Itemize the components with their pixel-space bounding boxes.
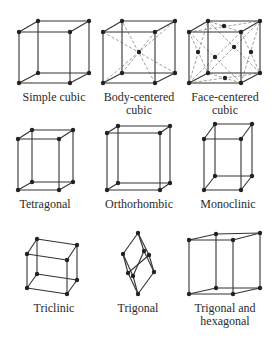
simple-cubic-label: Simple cubic (9, 91, 99, 104)
atom-point (120, 19, 124, 23)
label-line: Trigonal (93, 302, 183, 315)
atom-point (196, 50, 200, 54)
atom-point (158, 131, 162, 135)
atom-point (87, 71, 91, 75)
triclinic-label: Triclinic (9, 302, 99, 315)
atom-point (68, 81, 72, 85)
body-centered-cubic-label: Body-centeredcubic (94, 91, 184, 117)
atom-point (25, 252, 29, 256)
cell-edge (27, 254, 67, 260)
label-line: cubic (94, 104, 184, 117)
atom-point (168, 124, 172, 128)
atom-point (239, 30, 243, 34)
atom-point (87, 19, 91, 23)
cell-edge (70, 73, 89, 83)
atom-point (35, 272, 39, 276)
atom-point (16, 137, 20, 141)
atom-point (105, 131, 109, 135)
cell-edge (155, 73, 175, 83)
atom-point (206, 19, 210, 23)
atom-point (187, 30, 191, 34)
atom-point (131, 274, 135, 278)
label-line: hexagonal (180, 315, 270, 328)
orthorhombic-label: Orthorhombic (94, 198, 184, 211)
label-line: Tetragonal (0, 198, 90, 211)
cell-edge (241, 176, 252, 190)
atom-point (249, 50, 253, 54)
orthorhombic-lattice (105, 124, 172, 192)
atom-point (206, 71, 210, 75)
cell-edge (18, 130, 32, 139)
atom-point (202, 137, 206, 141)
atom-point (258, 231, 262, 235)
cell-edge (18, 182, 32, 190)
atom-point (101, 30, 105, 34)
atom-point (75, 278, 79, 282)
atom-point (137, 50, 141, 54)
cell-edge (189, 234, 216, 240)
cell-edge (59, 130, 73, 139)
trigonal-and-hexagonal-lattice (187, 231, 262, 296)
atom-point (153, 81, 157, 85)
label-line: Orthorhombic (94, 198, 184, 211)
atom-point (213, 55, 217, 59)
trigonal-lattice (121, 231, 156, 296)
atom-point (213, 122, 217, 126)
cell-edge (138, 272, 154, 294)
atom-point (258, 286, 262, 290)
cell-edge (123, 233, 138, 254)
tetragonal-lattice (16, 128, 75, 192)
atom-point (30, 180, 34, 184)
atom-point (101, 81, 105, 85)
atom-point (16, 188, 20, 192)
atom-point (231, 292, 235, 296)
atom-point (17, 30, 21, 34)
atom-point (158, 188, 162, 192)
trigonal-and-hexagonal-label: Trigonal andhexagonal (180, 302, 270, 328)
cell-edge (27, 288, 67, 294)
atom-point (173, 71, 177, 75)
cell-edge (189, 288, 216, 294)
atom-point (35, 237, 39, 241)
atom-point (168, 181, 172, 185)
atom-point (71, 128, 75, 132)
label-line: cubic (180, 104, 270, 117)
label-line: Simple cubic (9, 91, 99, 104)
atom-point (57, 137, 61, 141)
cell-edge (204, 176, 215, 190)
atom-point (258, 71, 262, 75)
atom-point (187, 238, 191, 242)
atom-point (239, 188, 243, 192)
cell-edge (103, 21, 122, 32)
atom-point (258, 19, 262, 23)
cell-edge (216, 233, 260, 234)
cell-edge (204, 124, 215, 139)
atom-point (126, 271, 130, 275)
monoclinic-lattice (202, 122, 254, 192)
atom-point (147, 253, 151, 257)
atom-point (152, 270, 156, 274)
cell-edge (19, 73, 38, 83)
atom-point (202, 188, 206, 192)
atom-point (65, 258, 69, 262)
atom-point (142, 249, 146, 253)
atom-point (30, 128, 34, 132)
atom-point (214, 232, 218, 236)
simple-cubic-lattice (17, 19, 91, 85)
cell-edge (59, 182, 73, 190)
atom-point (36, 71, 40, 75)
atom-point (173, 19, 177, 23)
atom-point (153, 30, 157, 34)
label-line: Monoclinic (183, 198, 273, 211)
cell-edge (70, 21, 89, 32)
atom-point (65, 292, 69, 296)
cell-edge (37, 239, 77, 245)
atom-point (136, 231, 140, 235)
cell-edge (233, 288, 260, 294)
atom-point (68, 30, 72, 34)
body-centered-cubic-lattice (101, 19, 177, 85)
cell-edge (241, 124, 252, 139)
atom-point (214, 286, 218, 290)
cell-edge (27, 274, 37, 288)
bravais-lattice-diagram (0, 0, 277, 342)
